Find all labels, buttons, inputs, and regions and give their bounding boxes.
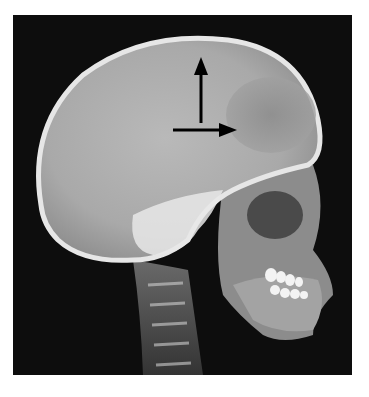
frontal-lesion-region: [226, 77, 316, 153]
mandible: [233, 276, 322, 331]
xray-image: [13, 15, 352, 375]
maxillary-sinus: [247, 191, 303, 239]
cervical-spine: [133, 260, 203, 375]
skull-radiograph: [13, 15, 352, 375]
